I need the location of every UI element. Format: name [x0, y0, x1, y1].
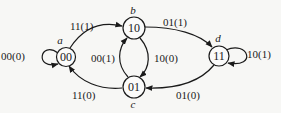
node-c-state: 01 — [128, 80, 140, 94]
label-c-b: 00(1) — [91, 52, 115, 65]
edge-b-c — [140, 38, 148, 77]
edge-c-a — [69, 66, 122, 88]
label-b-c: 10(0) — [154, 52, 178, 65]
edge-b-d — [145, 27, 212, 47]
node-b-name: b — [130, 4, 136, 16]
label-d-d: 10(1) — [247, 48, 271, 61]
edge-c-b — [120, 38, 128, 77]
node-b: 10 b — [123, 4, 145, 39]
state-diagram: 00(0) 11(1) 01(1) 10(0) 00(1) 11(0) 01(0… — [0, 0, 281, 113]
label-d-c: 01(0) — [176, 89, 200, 102]
edge-d-c — [146, 65, 214, 88]
node-d-name: d — [215, 32, 221, 44]
label-a-b: 11(1) — [70, 20, 94, 33]
node-b-state: 10 — [128, 21, 140, 35]
node-d: 11 d — [209, 32, 229, 66]
node-a: 00 a — [57, 34, 76, 67]
label-b-d: 01(1) — [163, 16, 187, 29]
node-c: 01 c — [123, 76, 145, 110]
node-c-name: c — [131, 98, 136, 110]
node-a-name: a — [57, 34, 63, 46]
edge-a-a — [42, 50, 58, 65]
node-d-state: 11 — [213, 49, 225, 63]
label-a-a: 00(0) — [1, 50, 25, 63]
node-a-state: 00 — [60, 50, 72, 64]
label-c-a: 11(0) — [72, 89, 96, 102]
